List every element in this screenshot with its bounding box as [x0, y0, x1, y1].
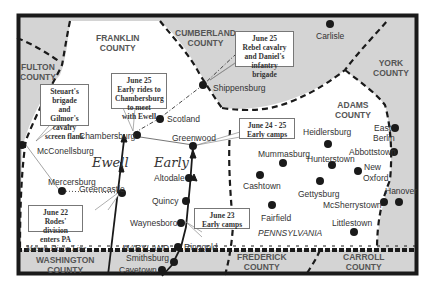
town-mcsherrystown: McSherrystown — [323, 201, 382, 210]
callout-rebel-cavalry: June 25 Rebel cavalry and Daniel's infan… — [235, 31, 294, 67]
callout-line: June 23 — [198, 211, 246, 220]
town-carlisle: Carlisle — [316, 32, 344, 41]
callout-line: Rodes' division — [32, 217, 79, 235]
town-smithsburg: Smithsburg — [126, 254, 169, 263]
town-greencastle: Greencastle — [79, 185, 125, 194]
county-fulton: FULTONCOUNTY — [20, 63, 56, 83]
county-carroll: CARROLLCOUNTY — [343, 253, 385, 273]
town-littlestown: Littlestown — [332, 219, 372, 228]
town-quincy: Quincy — [152, 197, 178, 206]
county-label-line2: COUNTY — [188, 38, 224, 48]
callout-rodes-division: June 22 Rodes' division enters PA — [28, 205, 83, 232]
callout-line: infantry brigade — [239, 61, 290, 79]
town-fairfield: Fairfield — [261, 214, 291, 223]
callout-early-rides: June 25 Early rides to Chambersburg to m… — [111, 73, 167, 109]
county-franklin: FRANKLINCOUNTY — [96, 34, 139, 54]
town-east-berlin-line2: Berlin — [373, 134, 395, 143]
county-cumberland: CUMBERLANDCOUNTY — [175, 29, 236, 49]
county-label-line1: FULTON — [21, 62, 55, 72]
county-label-line2: COUNTY — [100, 43, 136, 53]
town-new-oxford-line1: New — [364, 163, 381, 172]
town-heidlersburg: Heidlersburg — [303, 128, 351, 137]
callout-line: Rebel cavalry — [239, 43, 290, 52]
town-chambersburg: Chambersburg — [79, 132, 135, 141]
county-label-line1: CUMBERLAND — [175, 28, 236, 38]
county-label-line2: COUNTY — [373, 68, 409, 78]
commander-ewell: Ewell — [92, 155, 129, 170]
town-gettysburg: Gettysburg — [298, 190, 340, 199]
callout-line: June 24 - 25 — [243, 121, 291, 130]
town-new-oxford-line2: Oxford — [363, 174, 389, 183]
town-abbottstown: Abbottstown — [349, 148, 396, 157]
county-label-line1: YORK — [379, 58, 404, 68]
commander-early: Early — [154, 155, 189, 170]
civil-war-map: FRANKLINCOUNTY CUMBERLANDCOUNTY FULTONCO… — [0, 0, 430, 296]
county-label-line1: FRANKLIN — [96, 33, 139, 43]
callout-line: brigade — [44, 96, 85, 105]
town-hunterstown: Hunterstown — [307, 155, 355, 164]
county-label-line1: WASHINGTON — [36, 255, 94, 265]
county-label-line2: COUNTY — [20, 72, 56, 82]
callout-steuart-brigade: Steuart's brigade and Gilmor's cavalry s… — [40, 84, 89, 126]
callout-june-23-camps: June 23 Early camps — [194, 208, 250, 229]
callout-line: to meet — [115, 103, 163, 112]
county-label-line1: CARROLL — [343, 252, 385, 262]
callout-june-24-25-camps: June 24 - 25 Early camps — [239, 118, 295, 139]
town-cavetown: Cavetown — [119, 266, 157, 275]
callout-line: June 25 — [239, 34, 290, 43]
town-scotland: Scotland — [167, 115, 200, 124]
callout-line: June 22 — [32, 208, 79, 217]
town-east-berlin-line1: East — [374, 124, 391, 133]
county-frederick: FREDERICKCOUNTY — [237, 253, 287, 273]
callout-line: June 25 — [115, 76, 163, 85]
callout-line: Chambersburg — [115, 94, 163, 103]
state-maryland: MARYLAND — [122, 243, 169, 253]
callout-line: screen flank — [44, 132, 85, 141]
county-washington: WASHINGTONCOUNTY — [36, 256, 94, 276]
town-ringgold: Ringgold — [184, 243, 218, 252]
callout-line: and Gilmor's — [44, 105, 85, 123]
county-label-line2: COUNTY — [47, 265, 83, 275]
town-waynesboro: Waynesboro — [130, 219, 177, 228]
callout-line: Early camps — [243, 130, 291, 139]
town-shippensburg: Shippensburg — [213, 84, 265, 93]
town-hanover: Hanover — [385, 187, 417, 196]
county-label-line2: COUNTY — [244, 262, 280, 272]
mason-dixon-label: Mason-Dixon Line — [26, 244, 86, 253]
callout-line: Early rides to — [115, 85, 163, 94]
town-cashtown: Cashtown — [243, 182, 281, 191]
county-york: YORKCOUNTY — [373, 59, 409, 79]
town-altodale: Altodale — [154, 174, 185, 183]
town-mummasburg: Mummasburg — [258, 150, 310, 159]
town-greenwood: Greenwood — [172, 134, 216, 143]
callout-line: cavalry — [44, 123, 85, 132]
county-label-line2: COUNTY — [346, 262, 382, 272]
callout-line: Steuart's — [44, 87, 85, 96]
callout-line: enters PA — [32, 235, 79, 244]
town-mcconellsburg: McConellsburg — [37, 147, 94, 156]
county-label-line1: ADAMS — [337, 100, 368, 110]
county-label-line2: COUNTY — [335, 110, 371, 120]
callout-line: with Ewell — [115, 112, 163, 121]
callout-line: and Daniel's — [239, 52, 290, 61]
county-label-line1: FREDERICK — [237, 252, 287, 262]
state-pennsylvania: PENNSYLVANIA — [258, 228, 322, 238]
callout-line: Early camps — [198, 220, 246, 229]
county-adams: ADAMSCOUNTY — [335, 101, 371, 121]
